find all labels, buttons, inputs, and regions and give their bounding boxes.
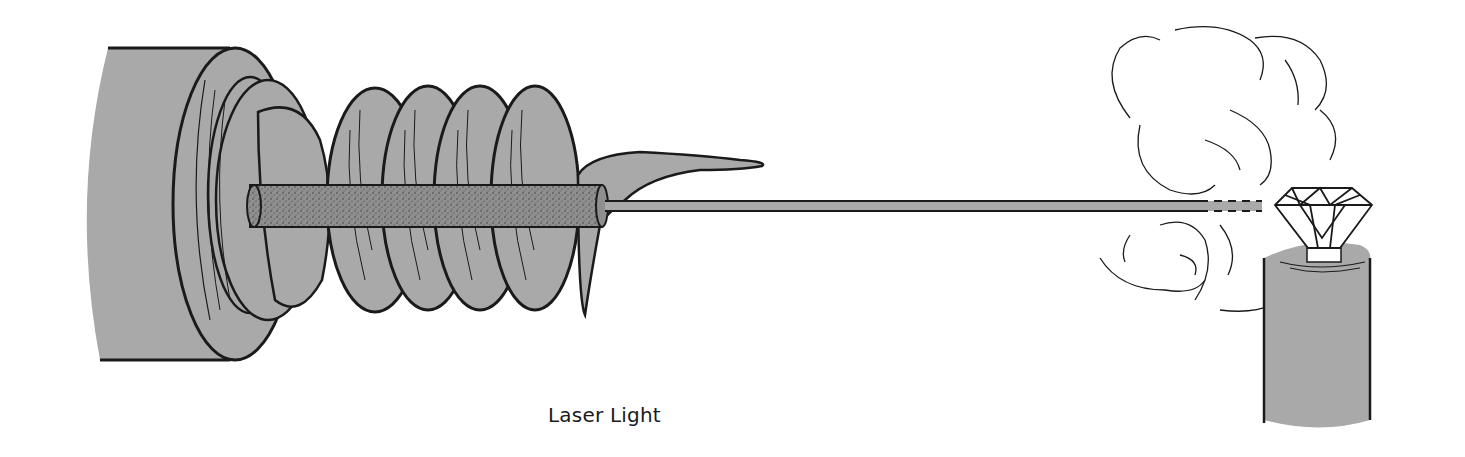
- figure-caption: Laser Light: [548, 403, 661, 427]
- laser-diagram: Laser Light: [0, 0, 1465, 457]
- laser-beam: [605, 201, 1262, 211]
- ruby-rod: [247, 185, 608, 227]
- pedestal: [1264, 242, 1370, 427]
